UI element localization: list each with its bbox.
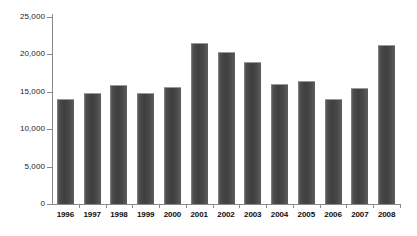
x-axis-tick: [266, 204, 267, 208]
x-axis-label-2008: 2008: [373, 211, 400, 219]
x-axis-tick: [400, 204, 401, 208]
y-axis-tick-label: 15,000: [20, 88, 45, 96]
x-axis-line: [52, 204, 401, 205]
bar-2001: [191, 43, 208, 204]
x-axis-label-1996: 1996: [52, 211, 79, 219]
bar-2004: [271, 84, 288, 204]
bar-1999: [137, 93, 154, 204]
x-axis-tick: [159, 204, 160, 208]
x-axis-tick: [293, 204, 294, 208]
y-axis-tick-label: 5,000: [24, 163, 45, 171]
bar-2002: [218, 52, 235, 204]
x-axis-label-2004: 2004: [266, 211, 293, 219]
x-axis-tick: [213, 204, 214, 208]
y-axis-tick: [47, 204, 52, 205]
plot-area: [52, 17, 400, 204]
bar-1997: [84, 93, 101, 204]
bar-2006: [325, 99, 342, 204]
y-axis-tick-label: 20,000: [20, 50, 45, 58]
y-axis-tick-label: 25,000: [20, 13, 45, 21]
x-axis-tick: [346, 204, 347, 208]
bar-2005: [298, 81, 315, 204]
x-axis-label-2006: 2006: [320, 211, 347, 219]
bar-2000: [164, 87, 181, 204]
bar-chart-figure: 05,00010,00015,00020,00025,000 199619971…: [0, 0, 417, 236]
x-axis-tick: [320, 204, 321, 208]
x-axis-label-1998: 1998: [106, 211, 133, 219]
y-axis-tick-label: 0: [40, 200, 45, 208]
y-axis-tick-label: 10,000: [20, 125, 45, 133]
x-axis-label-2005: 2005: [293, 211, 320, 219]
x-axis-tick: [106, 204, 107, 208]
x-axis-tick: [79, 204, 80, 208]
bar-1996: [57, 99, 74, 204]
x-axis-label-1997: 1997: [79, 211, 106, 219]
x-axis-label-2001: 2001: [186, 211, 213, 219]
x-axis-label-1999: 1999: [132, 211, 159, 219]
x-axis-tick: [239, 204, 240, 208]
x-axis-label-2002: 2002: [213, 211, 240, 219]
x-axis-tick: [373, 204, 374, 208]
bar-1998: [110, 85, 127, 204]
x-axis-label-2003: 2003: [239, 211, 266, 219]
x-axis-label-2007: 2007: [346, 211, 373, 219]
x-axis-tick: [132, 204, 133, 208]
bar-2007: [351, 88, 368, 204]
bar-2008: [378, 45, 395, 204]
x-axis-tick: [186, 204, 187, 208]
x-axis-label-2000: 2000: [159, 211, 186, 219]
bar-2003: [244, 62, 261, 204]
